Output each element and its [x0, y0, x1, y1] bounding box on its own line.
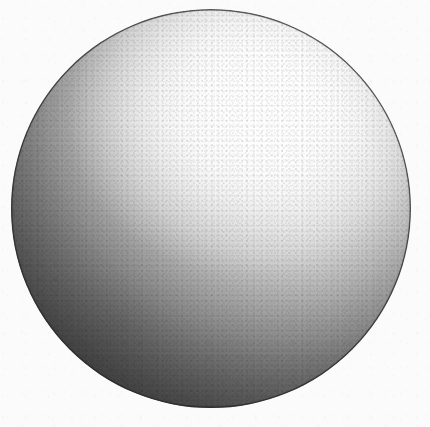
artwork-canvas: A grayscale shaded sphere rendered with … [0, 0, 430, 427]
sphere-outline [11, 9, 411, 408]
sphere-shape [11, 9, 411, 408]
